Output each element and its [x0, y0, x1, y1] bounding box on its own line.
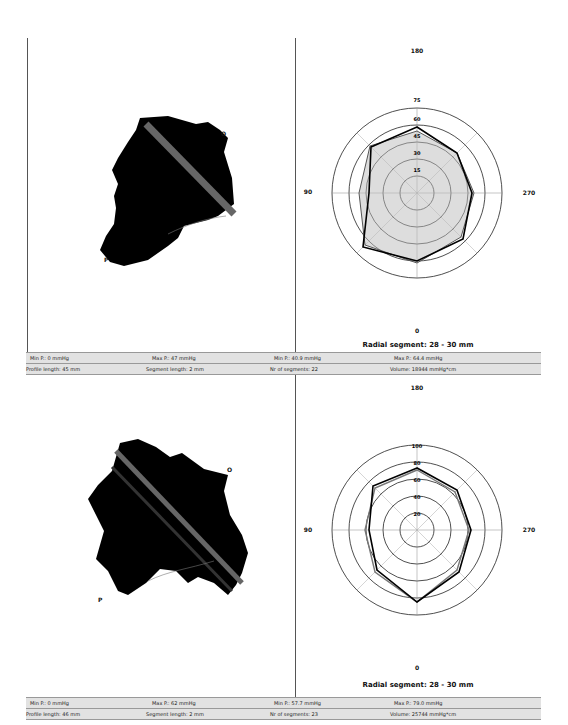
svg-text:75: 75: [414, 97, 421, 103]
pressure-map-image[interactable]: O P: [28, 375, 294, 697]
nr-segments: Nr of segments: 22: [270, 364, 318, 374]
polar-plot-svg: 100 80 60 40 20: [296, 375, 541, 697]
axis-label-270: 270: [514, 189, 544, 196]
volume: Volume: 18944 mmHg*cm: [390, 364, 456, 374]
svg-text:80: 80: [414, 460, 421, 466]
bottom-panel: O P 100 80 60 40 20 180: [0, 375, 568, 725]
status-row-profile: Profile length: 46 mm Segment length: 2 …: [26, 708, 541, 720]
svg-text:40: 40: [414, 494, 421, 500]
svg-text:P: P: [98, 596, 103, 603]
max-pressure: Max P.: 62 mmHg: [152, 698, 196, 708]
volume: Volume: 25744 mmHg*cm: [390, 709, 456, 719]
profile-length: Profile length: 45 mm: [26, 364, 80, 374]
profile-length: Profile length: 46 mm: [26, 709, 80, 719]
axis-label-90: 90: [293, 526, 323, 533]
svg-text:30: 30: [414, 150, 421, 156]
axis-label-180: 180: [402, 47, 432, 54]
svg-text:60: 60: [414, 116, 421, 122]
svg-text:20: 20: [414, 511, 421, 517]
axis-label-180: 180: [402, 384, 432, 391]
polar-chart-top[interactable]: 75 60 45 30 15 180 90 270 0 Radial segme…: [296, 0, 541, 352]
max-pressure: Max P.: 47 mmHg: [152, 353, 196, 363]
svg-text:O: O: [227, 466, 232, 473]
svg-text:60: 60: [414, 477, 421, 483]
top-panel: O P 75 60 45 30 15 180: [0, 0, 568, 375]
svg-text:P: P: [104, 256, 109, 263]
polar-chart-bottom[interactable]: 100 80 60 40 20 180 90 270 0 Radial segm…: [296, 375, 541, 697]
axis-label-90: 90: [293, 188, 323, 195]
chart-title: Radial segment: 28 - 30 mm: [338, 341, 498, 349]
chart-max-pressure: Max P.: 64.4 mmHg: [394, 353, 442, 363]
axis-label-0: 0: [402, 327, 432, 334]
nr-segments: Nr of segments: 23: [270, 709, 318, 719]
pressure-map-image[interactable]: O P: [28, 38, 294, 352]
min-pressure: Min P.: 0 mmHg: [30, 698, 69, 708]
axis-label-0: 0: [402, 664, 432, 671]
status-row-profile: Profile length: 45 mm Segment length: 2 …: [26, 363, 541, 375]
chart-max-pressure: Max P.: 79.0 mmHg: [394, 698, 442, 708]
pressure-map-shape: O P: [28, 38, 294, 352]
segment-length: Segment length: 2 mm: [146, 709, 204, 719]
svg-text:45: 45: [414, 133, 421, 139]
axis-label-270: 270: [514, 526, 544, 533]
segment-length: Segment length: 2 mm: [146, 364, 204, 374]
svg-text:O: O: [221, 130, 226, 137]
svg-text:15: 15: [414, 167, 421, 173]
pressure-map-shape: O P: [28, 375, 294, 697]
chart-min-pressure: Min P.: 40.9 mmHg: [274, 353, 321, 363]
min-pressure: Min P.: 0 mmHg: [30, 353, 69, 363]
chart-min-pressure: Min P.: 57.7 mmHg: [274, 698, 321, 708]
svg-text:100: 100: [412, 443, 423, 449]
chart-title: Radial segment: 28 - 30 mm: [338, 681, 498, 689]
